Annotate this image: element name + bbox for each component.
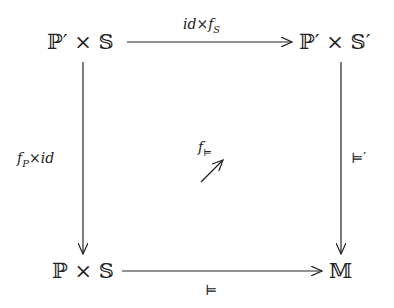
label-top-main: id×f <box>183 16 213 32</box>
label-left-arrow: fP×id <box>17 151 54 169</box>
node-bottom-right: 𝕄 <box>329 261 352 282</box>
node-top-left: ℙ′ × 𝕊 <box>47 32 114 53</box>
label-left-rest: ×id <box>29 150 54 166</box>
label-top-arrow: id×fS <box>183 17 220 35</box>
arrow-center <box>201 160 223 182</box>
label-top-sub: S <box>213 24 220 35</box>
label-bottom-arrow: ⊨ <box>205 283 217 297</box>
label-left-sub: P <box>22 158 29 169</box>
label-center-arrow: f⊨ <box>198 140 212 158</box>
label-center-sub: ⊨ <box>203 147 212 158</box>
node-bottom-left: ℙ × 𝕊 <box>52 261 114 282</box>
node-top-right: ℙ′ × 𝕊′ <box>299 32 370 53</box>
label-right-arrow: ⊨′ <box>351 151 366 165</box>
